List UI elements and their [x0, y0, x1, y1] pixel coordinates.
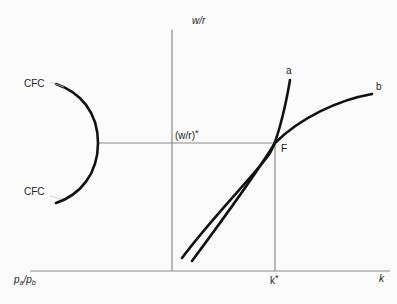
wr-star-mark: *: [195, 128, 199, 138]
vertical-axis-label: w/r: [192, 16, 205, 26]
factor-price-frontier-figure: CFC CFC w/r (w/r)* a b F k* k pa/pb: [0, 0, 397, 304]
price-ratio-p-a: p: [14, 274, 20, 285]
price-ratio-axis-label: pa/pb: [14, 275, 36, 285]
point-f-label: F: [281, 144, 287, 154]
cfc-bottom-label: CFC: [24, 187, 45, 197]
cfc-top-label: CFC: [24, 79, 45, 89]
horizontal-axis-label: k: [379, 274, 384, 284]
curve-a: [182, 80, 290, 258]
cfc-bottom-leader-line: [50, 196, 62, 199]
curve-a-label: a: [286, 66, 292, 76]
price-ratio-sub-a: a: [20, 279, 24, 286]
wr-star-label: (w/r)*: [175, 128, 199, 141]
cfc-top-leader-line: [50, 82, 64, 87]
k-star-label: k*: [270, 273, 279, 286]
cfc-curve: [56, 84, 98, 203]
price-ratio-sub-b: b: [32, 279, 36, 286]
price-ratio-slash-p: /p: [23, 274, 31, 285]
k-star-mark: *: [275, 273, 279, 283]
diagram-canvas: [0, 0, 397, 304]
wr-star-base: (w/r): [175, 130, 195, 141]
curve-b-label: b: [376, 82, 382, 92]
